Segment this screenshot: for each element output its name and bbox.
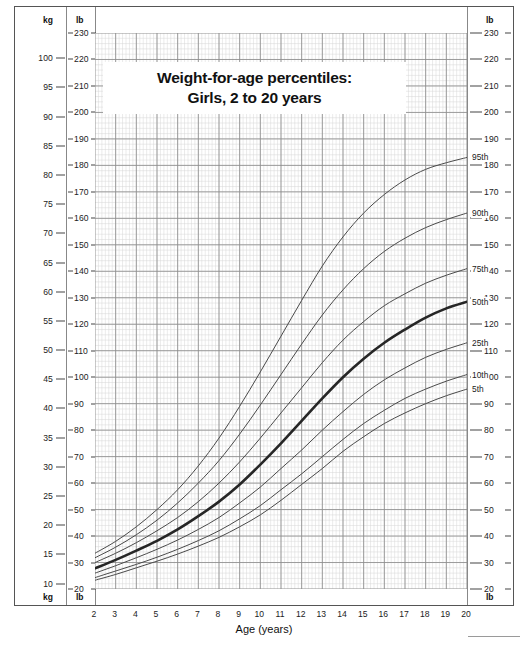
chart-title-line2: Girls, 2 to 20 years: [188, 88, 322, 108]
tick-mark: [56, 87, 65, 88]
tick-mark: [68, 456, 73, 457]
unit-header-lb-left: lb: [76, 15, 84, 25]
tick-mark: [68, 403, 73, 404]
tick-mark: [505, 562, 511, 563]
tick-label-kg-10: 10: [23, 579, 53, 589]
tick-label-lb-right-190: 190: [484, 134, 518, 144]
tick-mark: [56, 116, 65, 117]
tick-mark: [68, 324, 73, 325]
tick-mark: [470, 483, 482, 484]
tick-mark: [56, 262, 65, 263]
tick-label-kg-45: 45: [23, 374, 53, 384]
tick-label-lb-right-200: 200: [484, 107, 518, 117]
tick-label-kg-65: 65: [23, 258, 53, 268]
tick-mark: [68, 297, 73, 298]
tick-mark: [470, 165, 482, 166]
tick-mark: [56, 554, 65, 555]
tick-mark: [505, 589, 511, 590]
tick-label-kg-30: 30: [23, 462, 53, 472]
tick-mark: [505, 456, 511, 457]
tick-mark: [505, 297, 511, 298]
tick-mark: [470, 403, 482, 404]
tick-mark: [68, 165, 73, 166]
chart-title-line1: Weight-for-age percentiles:: [157, 68, 352, 88]
tick-mark: [505, 403, 511, 404]
tick-label-kg-60: 60: [23, 287, 53, 297]
tick-mark: [68, 59, 73, 60]
tick-mark: [68, 33, 73, 34]
tick-label-kg-20: 20: [23, 520, 53, 530]
tick-mark: [56, 58, 65, 59]
tick-label-lb-right-220: 220: [484, 54, 518, 64]
percentile-label-5th: 5th: [471, 384, 485, 394]
growth-chart-frame: kg lb lb kg lb lb 1009590858075706560555…: [14, 6, 514, 606]
tick-mark: [56, 233, 65, 234]
tick-mark: [56, 437, 65, 438]
tick-mark: [68, 244, 73, 245]
tick-mark: [470, 509, 482, 510]
tick-mark: [56, 320, 65, 321]
tick-mark: [56, 583, 65, 584]
tick-mark: [68, 138, 73, 139]
tick-label-kg-55: 55: [23, 316, 53, 326]
tick-mark: [505, 271, 511, 272]
tick-mark: [470, 350, 482, 351]
tick-mark: [68, 562, 73, 563]
divider-plot-lbright: [467, 7, 468, 605]
grid-major: [95, 33, 467, 589]
x-axis-title: Age (years): [0, 623, 528, 635]
tick-label-lb-right-230: 230: [484, 28, 518, 38]
tick-mark: [56, 408, 65, 409]
tick-mark: [56, 204, 65, 205]
tick-mark: [56, 291, 65, 292]
percentile-label-25th: 25th: [471, 338, 489, 348]
tick-mark: [505, 33, 511, 34]
tick-mark: [68, 589, 73, 590]
tick-mark: [56, 174, 65, 175]
tick-mark: [505, 244, 511, 245]
tick-mark: [470, 562, 482, 563]
tick-label-kg-80: 80: [23, 170, 53, 180]
corner-rule: [468, 636, 520, 637]
tick-label-lb-right-210: 210: [484, 81, 518, 91]
tick-mark: [470, 112, 482, 113]
tick-label-kg-90: 90: [23, 112, 53, 122]
tick-mark: [470, 456, 482, 457]
tick-mark: [470, 536, 482, 537]
tick-label-lb-right-120: 120: [484, 319, 518, 329]
tick-mark: [470, 138, 482, 139]
tick-mark: [470, 430, 482, 431]
percentile-label-10th: 10th: [471, 370, 489, 380]
tick-label-kg-25: 25: [23, 491, 53, 501]
tick-mark: [505, 377, 511, 378]
tick-mark: [470, 33, 482, 34]
percentile-label-50th: 50th: [471, 297, 489, 307]
tick-mark: [68, 112, 73, 113]
tick-mark: [505, 59, 511, 60]
tick-mark: [470, 244, 482, 245]
tick-mark: [505, 483, 511, 484]
tick-mark: [505, 191, 511, 192]
tick-mark: [56, 145, 65, 146]
tick-mark: [505, 509, 511, 510]
percentile-label-90th: 90th: [471, 208, 489, 218]
tick-mark: [470, 324, 482, 325]
tick-mark: [505, 112, 511, 113]
tick-mark: [470, 589, 482, 590]
unit-header-kg-left: kg: [43, 15, 53, 25]
tick-mark: [68, 350, 73, 351]
tick-mark: [68, 509, 73, 510]
plot-area: [95, 33, 467, 589]
tick-mark: [68, 191, 73, 192]
tick-mark: [56, 379, 65, 380]
tick-mark: [505, 430, 511, 431]
tick-label-kg-75: 75: [23, 199, 53, 209]
tick-mark: [68, 271, 73, 272]
tick-label-lb-right-150: 150: [484, 240, 518, 250]
tick-mark: [68, 483, 73, 484]
tick-label-lb-right-30: 30: [484, 558, 518, 568]
tick-mark: [68, 536, 73, 537]
percentile-label-75th: 75th: [471, 264, 489, 274]
tick-label-lb-right-20: 20: [484, 584, 518, 594]
tick-label-kg-15: 15: [23, 549, 53, 559]
